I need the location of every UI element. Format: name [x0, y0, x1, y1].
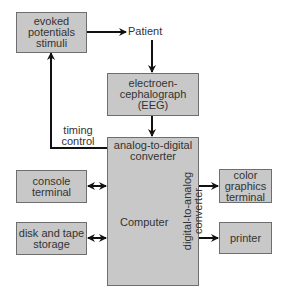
computer-label: Computer: [120, 217, 168, 228]
color-graphics-terminal-box: color graphics terminal: [219, 169, 272, 203]
printer-label: printer: [230, 233, 261, 244]
console-label: console terminal: [32, 176, 71, 198]
color-graphics-label: color graphics terminal: [225, 170, 267, 203]
adc-label: analog-to-digital converter: [107, 140, 199, 162]
disk-tape-storage-box: disk and tape storage: [16, 222, 87, 255]
printer-box: printer: [219, 222, 272, 254]
patient-label: Patient: [128, 26, 178, 37]
evoked-label: evoked potentials stimuli: [28, 16, 75, 49]
console-terminal-box: console terminal: [16, 170, 87, 203]
evoked-potentials-stimuli-box: evoked potentials stimuli: [16, 12, 87, 53]
disk-label: disk and tape storage: [19, 228, 84, 250]
timing-control-label: timing control: [51, 125, 105, 147]
dac-label: digital-to-analog converter: [182, 166, 204, 256]
eeg-box: electroen- cephalograph (EEG): [107, 73, 199, 116]
eeg-label: electroen- cephalograph (EEG): [120, 78, 187, 111]
